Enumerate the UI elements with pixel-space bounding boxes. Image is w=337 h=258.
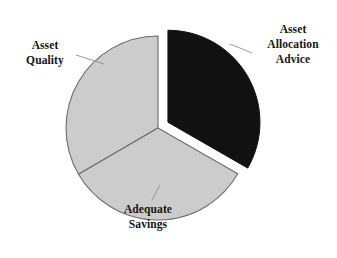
pie-label-line: Asset (252, 22, 334, 37)
pie-label-line: Savings (88, 217, 208, 232)
pie-label-asset-quality: Asset Quality (8, 38, 82, 68)
pie-label-line: Allocation (252, 37, 334, 52)
pie-label-line: Quality (8, 53, 82, 68)
pie-label-line: Advice (252, 52, 334, 67)
pie-label-line: Adequate (88, 202, 208, 217)
pie-label-line: Asset (8, 38, 82, 53)
pie-chart: Asset Allocation Advice Asset Quality Ad… (0, 0, 337, 258)
pie-label-asset-allocation-advice: Asset Allocation Advice (252, 22, 334, 67)
leader-line-asset-allocation-advice (230, 44, 252, 53)
pie-label-adequate-savings: Adequate Savings (88, 202, 208, 232)
